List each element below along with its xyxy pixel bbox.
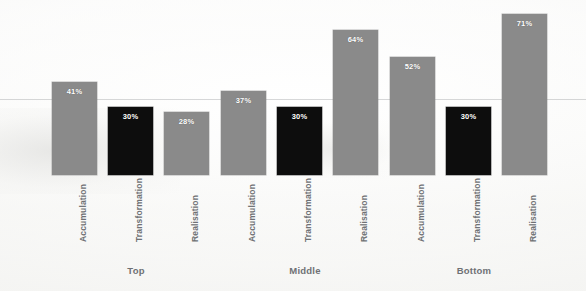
- bar-value-label: 52%: [390, 63, 435, 71]
- category-label-transformation: Transformation: [473, 178, 482, 242]
- bar-value-label: 28%: [164, 118, 209, 126]
- bar-value-label: 30%: [108, 113, 153, 121]
- category-label-accumulation: Accumulation: [248, 184, 257, 242]
- bar-bottom-realisation[interactable]: 71%: [502, 14, 547, 175]
- bar-value-label: 30%: [446, 113, 491, 121]
- bar-value-label: 64%: [333, 36, 378, 44]
- bar-top-transformation[interactable]: 30%: [108, 107, 153, 175]
- bar-value-label: 37%: [221, 97, 266, 105]
- category-label-realisation: Realisation: [191, 195, 200, 242]
- category-label-transformation: Transformation: [304, 178, 313, 242]
- bar-bottom-accumulation[interactable]: 52%: [390, 57, 435, 175]
- bar-value-label: 41%: [52, 88, 97, 96]
- group-label-bottom: Bottom: [434, 266, 514, 276]
- bar-top-accumulation[interactable]: 41%: [52, 82, 97, 175]
- category-label-transformation: Transformation: [135, 178, 144, 242]
- bar-middle-transformation[interactable]: 30%: [277, 107, 322, 175]
- category-label-accumulation: Accumulation: [79, 184, 88, 242]
- category-label-accumulation: Accumulation: [417, 184, 426, 242]
- bar-chart: 41%Accumulation30%Transformation28%Reali…: [0, 0, 586, 291]
- category-label-realisation: Realisation: [529, 195, 538, 242]
- bar-value-label: 71%: [502, 20, 547, 28]
- bar-value-label: 30%: [277, 113, 322, 121]
- bar-middle-accumulation[interactable]: 37%: [221, 91, 266, 175]
- group-label-middle: Middle: [265, 266, 345, 276]
- bar-top-realisation[interactable]: 28%: [164, 112, 209, 175]
- bar-bottom-transformation[interactable]: 30%: [446, 107, 491, 175]
- plot-area: 41%Accumulation30%Transformation28%Reali…: [0, 0, 586, 291]
- category-label-realisation: Realisation: [360, 195, 369, 242]
- group-label-top: Top: [96, 266, 176, 276]
- bar-middle-realisation[interactable]: 64%: [333, 30, 378, 175]
